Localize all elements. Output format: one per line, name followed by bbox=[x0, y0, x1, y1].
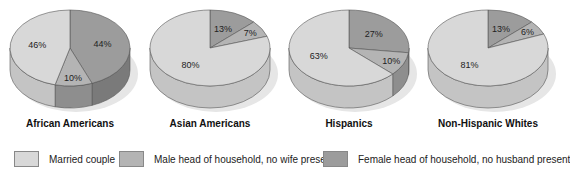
legend-item-female-head: Female head of household, no husband pre… bbox=[323, 148, 570, 170]
slice-label: 10% bbox=[382, 56, 400, 66]
pie-african-americans: 44%10%46% African Americans bbox=[0, 0, 140, 140]
pie-graphic: 13%6%81% bbox=[418, 0, 558, 120]
legend: Married couple Male head of household, n… bbox=[0, 148, 558, 172]
legend-item-married: Married couple bbox=[14, 148, 115, 170]
pie-non-hispanic-whites: 13%6%81% Non-Hispanic Whites bbox=[418, 0, 558, 140]
slice-label: 81% bbox=[460, 60, 478, 70]
pie-graphic: 44%10%46% bbox=[0, 0, 140, 120]
slice-label: 13% bbox=[492, 24, 510, 34]
pie-title: African Americans bbox=[0, 118, 140, 129]
pie-asian-americans: 13%7%80% Asian Americans bbox=[140, 0, 280, 140]
pie-title: Non-Hispanic Whites bbox=[418, 118, 558, 129]
legend-item-male-head: Male head of household, no wife present bbox=[119, 148, 334, 170]
pie-title: Hispanics bbox=[279, 118, 419, 129]
pie-charts: 44%10%46% African Americans 13%7%80% Asi… bbox=[0, 0, 558, 140]
slice-label: 46% bbox=[28, 40, 46, 50]
slice-label: 13% bbox=[214, 24, 232, 34]
legend-swatch-female-head bbox=[323, 151, 348, 167]
legend-label: Female head of household, no husband pre… bbox=[358, 154, 570, 165]
pie-graphic: 13%7%80% bbox=[140, 0, 280, 120]
legend-swatch-male-head bbox=[119, 151, 144, 167]
slice-label: 27% bbox=[365, 29, 383, 39]
legend-label: Married couple bbox=[49, 154, 115, 165]
slice-label: 6% bbox=[521, 27, 534, 37]
slice-label: 7% bbox=[244, 28, 257, 38]
legend-label: Male head of household, no wife present bbox=[154, 154, 334, 165]
pie-hispanics: 27%10%63% Hispanics bbox=[279, 0, 419, 140]
pie-graphic: 27%10%63% bbox=[279, 0, 419, 120]
pie-title: Asian Americans bbox=[140, 118, 280, 129]
slice-label: 10% bbox=[64, 73, 82, 83]
slice-label: 44% bbox=[93, 39, 111, 49]
slice-label: 63% bbox=[310, 51, 328, 61]
legend-swatch-married bbox=[14, 151, 39, 167]
slice-label: 80% bbox=[182, 60, 200, 70]
